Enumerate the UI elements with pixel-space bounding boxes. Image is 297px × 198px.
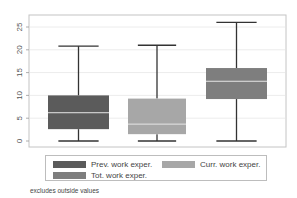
box-0 [48,46,109,141]
iqr-box [206,68,267,99]
legend-swatch-tot [53,172,86,179]
y-tick-label: 25 [15,22,24,31]
y-tick-label: 15 [15,68,24,77]
legend-item-curr: Curr. work exper. [162,160,260,169]
footnote: excludes outside values [30,187,99,194]
legend-item-prev: Prev. work exper. [53,160,152,169]
legend-item-tot: Tot. work exper. [53,171,147,180]
y-tick-label: 0 [15,138,24,143]
box-1 [128,45,186,141]
legend-label-prev: Prev. work exper. [91,160,152,169]
iqr-box [128,99,186,135]
boxes [48,22,267,141]
legend-swatch-prev [53,161,86,168]
legend-label-tot: Tot. work exper. [91,171,147,180]
y-axis: 0510152025 [15,22,29,143]
y-tick-label: 5 [15,115,24,120]
legend: Prev. work exper. Curr. work exper. Tot.… [45,155,267,181]
legend-swatch-curr [162,161,195,168]
box-2 [206,22,267,141]
y-tick-label: 20 [15,45,24,54]
y-tick-label: 10 [15,90,24,99]
legend-label-curr: Curr. work exper. [200,160,260,169]
